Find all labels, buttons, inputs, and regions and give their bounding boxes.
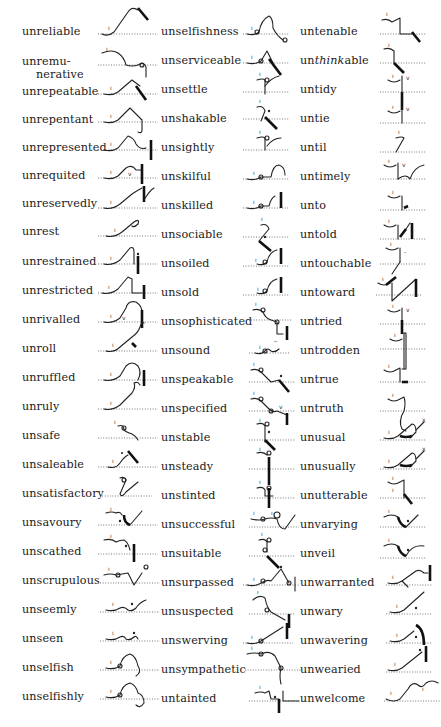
word-label: unrepeatable xyxy=(22,85,99,98)
svg-text:ı: ı xyxy=(110,532,112,539)
word-label: unwarranted xyxy=(300,576,375,589)
word-label: unrest xyxy=(22,225,59,238)
word-label-continued: nerative xyxy=(36,68,84,81)
word-label: unusual xyxy=(300,431,346,444)
word-label: unto xyxy=(300,199,326,212)
svg-text:ı: ı xyxy=(257,285,259,292)
svg-text:v: v xyxy=(128,170,132,177)
svg-text:ı: ı xyxy=(394,660,396,667)
svg-text:ı: ı xyxy=(251,24,253,31)
word-label: unrequited xyxy=(22,169,86,182)
word-label: unthinkable xyxy=(300,54,369,67)
svg-text:ı: ı xyxy=(253,169,255,176)
word-label: unserviceable xyxy=(161,54,241,67)
word-label: unruly xyxy=(22,400,59,413)
word-label: untruth xyxy=(300,402,344,415)
svg-text:ı: ı xyxy=(251,633,253,640)
svg-text:ı: ı xyxy=(110,168,112,175)
word-label: unusually xyxy=(300,460,356,473)
svg-text:ı: ı xyxy=(251,53,253,60)
word-label: unscathed xyxy=(22,545,81,558)
svg-text:ı: ı xyxy=(271,509,273,516)
word-label: unsociable xyxy=(161,228,223,241)
svg-text:ı: ı xyxy=(394,331,396,338)
word-label: unseemly xyxy=(22,603,77,616)
shorthand-outline: ı xyxy=(98,379,158,419)
word-label: unsteady xyxy=(161,460,213,473)
shorthand-outline: ı xyxy=(100,675,160,715)
svg-text:ı: ı xyxy=(253,360,255,367)
word-label: unspecified xyxy=(161,402,227,415)
svg-text:ı: ı xyxy=(398,128,400,135)
word-italic: think xyxy=(315,54,345,67)
svg-text:ı: ı xyxy=(392,486,394,493)
svg-text:ı: ı xyxy=(112,600,114,607)
svg-text:ı: ı xyxy=(388,428,390,435)
word-label: unscrupulous xyxy=(22,574,100,587)
svg-text:ı: ı xyxy=(259,683,261,690)
word-label: untoward xyxy=(300,286,355,299)
svg-text:v: v xyxy=(279,403,283,410)
svg-text:ı: ı xyxy=(259,416,261,423)
svg-text:ı: ı xyxy=(110,687,112,694)
word-label: unruffled xyxy=(22,371,76,384)
svg-text:ı: ı xyxy=(114,226,116,233)
word-label: unwary xyxy=(300,605,343,618)
svg-text:ı: ı xyxy=(388,362,390,369)
word-label: unsold xyxy=(161,286,199,299)
word-label: unsettle xyxy=(161,83,208,96)
shorthand-outline: ı xyxy=(98,319,158,359)
svg-text:ı: ı xyxy=(112,341,114,348)
word-label: unspeakable xyxy=(161,373,234,386)
svg-text:ı: ı xyxy=(112,457,114,464)
word-label: unselfishness xyxy=(161,25,239,38)
word-prefix: un xyxy=(300,54,315,67)
svg-text:ı: ı xyxy=(259,128,261,135)
svg-text:ı: ı xyxy=(108,283,110,290)
word-label: until xyxy=(300,141,327,154)
svg-text:^: ^ xyxy=(273,339,278,346)
word-label: unreservedly xyxy=(22,197,97,210)
svg-text:ı: ı xyxy=(261,215,263,222)
svg-text:ı: ı xyxy=(110,198,112,205)
svg-text:v: v xyxy=(406,105,410,112)
svg-text:ı: ı xyxy=(392,72,394,79)
word-label: unsavoury xyxy=(22,516,82,529)
svg-text:ı: ı xyxy=(388,457,390,464)
word-label: unwavering xyxy=(300,634,368,647)
svg-text:v: v xyxy=(406,74,410,81)
word-label: unsympathetic xyxy=(161,663,246,676)
word-label: untidy xyxy=(300,83,337,96)
word-label: unseen xyxy=(22,632,63,645)
svg-text:ı: ı xyxy=(388,507,390,514)
word-suffix: able xyxy=(344,54,368,67)
shorthand-outline: ıı xyxy=(384,675,441,715)
svg-text:ı: ı xyxy=(110,370,112,377)
svg-text:ı: ı xyxy=(392,474,394,481)
word-label: unsatisfactory xyxy=(22,487,104,500)
svg-text:ı: ı xyxy=(110,505,112,512)
svg-text:ı: ı xyxy=(390,240,392,247)
svg-text:ı: ı xyxy=(259,70,261,77)
word-label: unsophisticated xyxy=(161,315,252,328)
word-label: unsound xyxy=(161,344,210,357)
svg-text:ı: ı xyxy=(110,84,112,91)
word-label: unreliable xyxy=(22,25,81,38)
word-label: unwearied xyxy=(300,663,361,676)
word-label: unsurpassed xyxy=(161,576,234,589)
shorthand-outline: ı xyxy=(98,4,158,44)
word-label: unutterable xyxy=(300,489,368,502)
word-label: unwelcome xyxy=(300,692,365,705)
svg-text:ı: ı xyxy=(108,24,110,31)
svg-text:ı: ı xyxy=(251,644,253,651)
svg-text:ı: ı xyxy=(257,588,259,595)
svg-text:ı: ı xyxy=(259,445,261,452)
word-label: unskilful xyxy=(161,170,211,183)
word-label: unrivalled xyxy=(22,313,80,326)
svg-text:ı: ı xyxy=(110,399,112,406)
word-label: untrue xyxy=(300,373,339,386)
word-label: unsuccessful xyxy=(161,518,235,531)
svg-text:ı: ı xyxy=(388,217,390,224)
word-label: unsuitable xyxy=(161,547,221,560)
word-label: unveil xyxy=(300,547,335,560)
